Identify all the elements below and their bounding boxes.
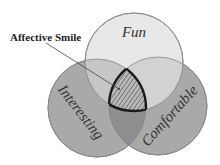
callout-label: Affective Smile bbox=[10, 31, 81, 43]
callout-dot bbox=[118, 88, 120, 90]
label-fun: Fun bbox=[121, 24, 146, 40]
venn-diagram: Affective Smile Fun Interesting Comforta… bbox=[0, 0, 220, 165]
